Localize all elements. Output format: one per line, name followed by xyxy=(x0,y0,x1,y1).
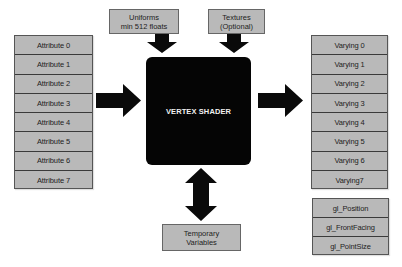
attribute-label: Attribute 3 xyxy=(37,99,70,108)
attribute-label: Attribute 4 xyxy=(37,118,70,127)
builtin-row: gl_FrontFacing xyxy=(313,218,388,237)
varying-label: Varying 5 xyxy=(334,137,364,146)
attribute-label: Attribute 0 xyxy=(37,41,70,50)
varying-row: Varying 0 xyxy=(312,36,387,55)
varying-label: Varying 6 xyxy=(334,156,364,165)
temporary-label: Temporary xyxy=(184,229,219,238)
arrow-down-uniforms-icon xyxy=(147,34,177,53)
attribute-row: Attribute 4 xyxy=(15,113,92,132)
attribute-row: Attribute 5 xyxy=(15,132,92,151)
attribute-label: Attribute 7 xyxy=(37,176,70,185)
attribute-row: Attribute 1 xyxy=(15,55,92,74)
uniforms-sublabel: min 512 floats xyxy=(121,22,168,31)
builtin-row: gl_Position xyxy=(313,199,388,218)
varying-row: Varying 2 xyxy=(312,75,387,94)
temporary-sublabel: Variables xyxy=(186,238,217,247)
attribute-label: Attribute 5 xyxy=(37,137,70,146)
builtin-label: gl_FrontFacing xyxy=(326,223,375,232)
attribute-row: Attribute 7 xyxy=(15,171,92,190)
attribute-row: Attribute 3 xyxy=(15,94,92,113)
varying-label: Varying 0 xyxy=(334,41,364,50)
attribute-row: Attribute 2 xyxy=(15,75,92,94)
attribute-row: Attribute 6 xyxy=(15,152,92,171)
varying-label: Varying 1 xyxy=(334,60,364,69)
arrow-down-textures-icon xyxy=(219,34,249,53)
arrow-bidirectional-icon xyxy=(185,168,217,221)
arrow-right-input-icon xyxy=(96,84,141,117)
varying-row: Varying 1 xyxy=(312,55,387,74)
varying-row: Varying7 xyxy=(312,171,387,190)
uniforms-box: Uniforms min 512 floats xyxy=(109,9,179,34)
attribute-label: Attribute 6 xyxy=(37,156,70,165)
arrow-right-output-icon xyxy=(258,84,303,117)
varying-label: Varying 4 xyxy=(334,118,364,127)
builtin-label: gl_Position xyxy=(333,204,369,213)
attribute-label: Attribute 2 xyxy=(37,79,70,88)
varying-label: Varying7 xyxy=(335,176,363,185)
varying-label: Varying 3 xyxy=(334,99,364,108)
attribute-row: Attribute 0 xyxy=(15,36,92,55)
vertex-shader-label: VERTEX SHADER xyxy=(166,107,231,116)
varying-label: Varying 2 xyxy=(334,79,364,88)
varying-row: Varying 3 xyxy=(312,94,387,113)
attribute-label: Attribute 1 xyxy=(37,60,70,69)
varyings-list: Varying 0 Varying 1 Varying 2 Varying 3 … xyxy=(311,35,388,189)
uniforms-label: Uniforms xyxy=(129,13,159,22)
textures-box: Textures (Optional) xyxy=(208,9,265,34)
textures-label: Textures xyxy=(222,13,250,22)
builtin-label: gl_PointSize xyxy=(330,242,371,251)
varying-row: Varying 5 xyxy=(312,132,387,151)
textures-sublabel: (Optional) xyxy=(220,22,253,31)
temporary-variables-box: Temporary Variables xyxy=(162,224,241,251)
builtins-list: gl_Position gl_FrontFacing gl_PointSize xyxy=(312,198,389,255)
varying-row: Varying 4 xyxy=(312,113,387,132)
varying-row: Varying 6 xyxy=(312,152,387,171)
vertex-shader-block: VERTEX SHADER xyxy=(146,57,251,165)
builtin-row: gl_PointSize xyxy=(313,237,388,256)
attributes-list: Attribute 0 Attribute 1 Attribute 2 Attr… xyxy=(14,35,93,189)
